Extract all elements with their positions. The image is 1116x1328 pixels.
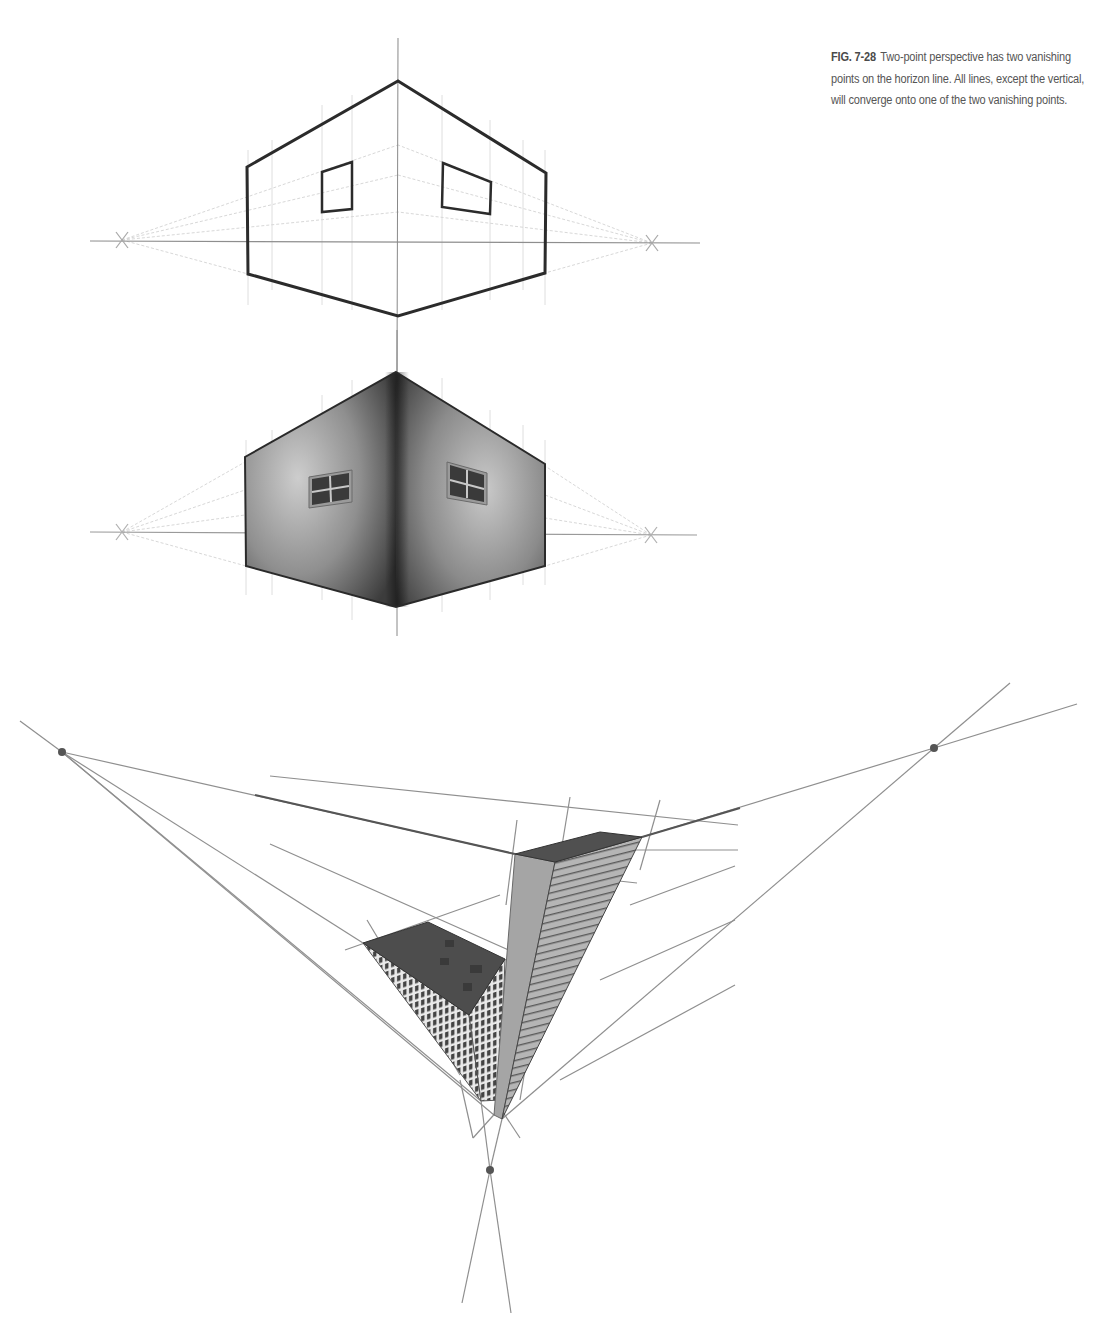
right-window xyxy=(442,163,491,214)
figure-two-point-shaded xyxy=(90,330,697,636)
figure-two-point-line xyxy=(90,38,700,372)
horizon-line xyxy=(90,241,700,243)
short-building xyxy=(363,922,505,1101)
vanishing-point-right-icon xyxy=(930,744,938,752)
perspective-illustration xyxy=(0,0,1116,1328)
corner-shadow xyxy=(385,372,409,607)
vanishing-point-bottom-icon xyxy=(486,1166,494,1174)
left-window xyxy=(309,470,352,508)
vertical-axis xyxy=(397,38,398,372)
roof-edge-line xyxy=(255,795,515,854)
vanishing-point-left-icon xyxy=(116,232,128,248)
vanishing-point-left-icon xyxy=(58,748,66,756)
figure-label: FIG. 7-28 xyxy=(831,50,876,64)
figure-three-point-skyscrapers xyxy=(20,683,1077,1313)
building-outline xyxy=(247,81,546,316)
figure-caption: FIG. 7-28Two-point perspective has two v… xyxy=(831,47,1086,112)
convergence-guides xyxy=(122,145,652,274)
